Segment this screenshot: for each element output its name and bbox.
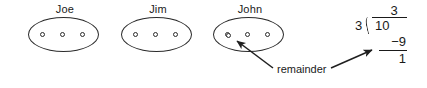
division-subtrahend: −9 [375,35,406,49]
division-divisor-digit: 3 [355,19,362,33]
remainder-arrows [0,0,427,88]
arrow-to-leftover-counter [237,41,273,68]
division-remainder-digit: 1 [375,52,406,66]
division-dividend-digits: 10 [375,19,389,33]
division-quotient-digit: 3 [381,4,407,18]
division-remainder-figure: Joe Jim John [0,0,427,88]
remainder-caption: remainder [277,63,327,76]
arrow-to-division-remainder [331,50,372,68]
